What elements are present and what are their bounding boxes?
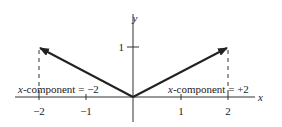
annotation-right: x-component = +2 — [167, 83, 249, 95]
vector-components-diagram: −2 −1 1 2 1 x y x-component = −2 x-compo… — [0, 0, 282, 127]
y-axis-label: y — [132, 12, 138, 24]
x-tick-label--1: −1 — [80, 105, 92, 117]
annotation-right-text: -component = +2 — [173, 83, 249, 95]
y-tick-label-1: 1 — [119, 41, 125, 53]
annotation-left-text: -component = −2 — [23, 83, 99, 95]
x-tick-label--2: −2 — [33, 105, 45, 117]
x-axis-label: x — [257, 91, 263, 103]
annotation-left: x-component = −2 — [17, 83, 99, 95]
x-tick-label-1: 1 — [178, 105, 184, 117]
x-tick-label-2: 2 — [225, 105, 231, 117]
